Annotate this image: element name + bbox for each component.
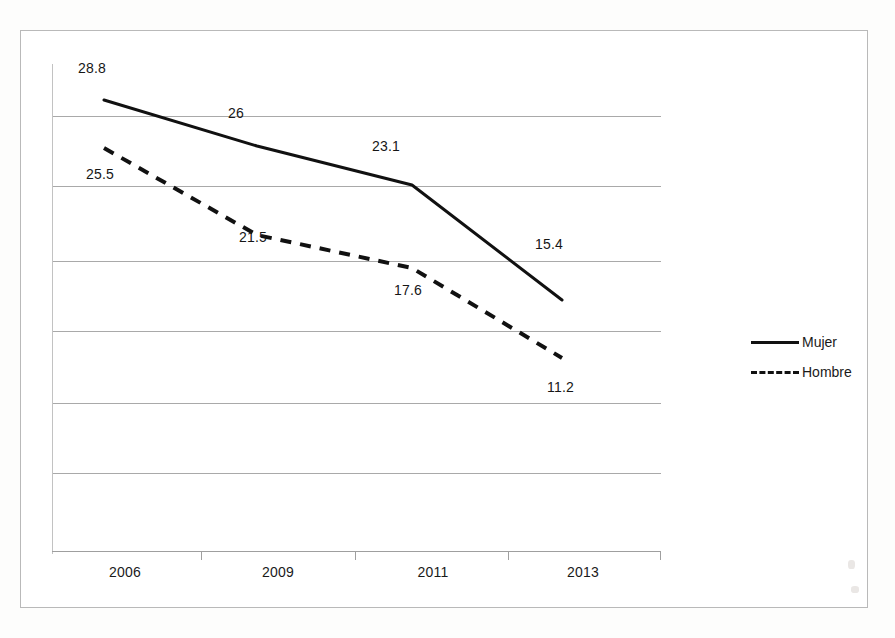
- scanned-page: 2006 2009 2011 2013 Mujer Hombre 28.8 26…: [0, 0, 895, 638]
- gridline-4: [52, 331, 661, 332]
- legend-swatch-solid-icon: [751, 336, 799, 348]
- gridline-1: [52, 116, 661, 117]
- x-axis-tick-3: [508, 552, 509, 560]
- x-axis-label-2013: 2013: [548, 564, 618, 580]
- gridline-3: [52, 261, 661, 262]
- legend-label-mujer: Mujer: [799, 334, 837, 350]
- x-axis-tick-1: [201, 552, 202, 560]
- legend-item-hombre[interactable]: Hombre: [751, 357, 871, 387]
- legend-swatch-dashed-icon: [751, 366, 799, 378]
- legend-item-mujer[interactable]: Mujer: [751, 327, 871, 357]
- chart-frame: 2006 2009 2011 2013 Mujer Hombre: [20, 30, 868, 608]
- gridline-6: [52, 473, 661, 474]
- data-label-hombre-2013: 11.2: [547, 379, 574, 395]
- data-label-mujer-2009: 26: [228, 105, 244, 121]
- data-label-hombre-2011: 17.6: [394, 282, 422, 298]
- x-axis-label-2009: 2009: [243, 564, 313, 580]
- gridline-2: [52, 186, 661, 187]
- y-axis-line: [52, 64, 53, 554]
- legend-label-hombre: Hombre: [799, 364, 852, 380]
- data-label-mujer-2013: 15.4: [535, 236, 563, 252]
- x-axis-label-2006: 2006: [90, 564, 160, 580]
- plot-area: [52, 86, 661, 551]
- data-label-hombre-2009: 21.5: [239, 229, 267, 245]
- scan-artifact: [851, 586, 859, 593]
- data-label-hombre-2006: 25.5: [86, 166, 114, 182]
- x-axis-tick-4: [660, 552, 661, 560]
- data-label-mujer-2011: 23.1: [372, 138, 400, 154]
- data-label-mujer-2006: 28.8: [78, 60, 106, 76]
- chart-legend: Mujer Hombre: [751, 327, 871, 387]
- x-axis-line: [52, 551, 661, 552]
- x-axis-tick-2: [355, 552, 356, 560]
- scan-artifact: [848, 560, 855, 569]
- x-axis-label-2011: 2011: [398, 564, 468, 580]
- gridline-5: [52, 403, 661, 404]
